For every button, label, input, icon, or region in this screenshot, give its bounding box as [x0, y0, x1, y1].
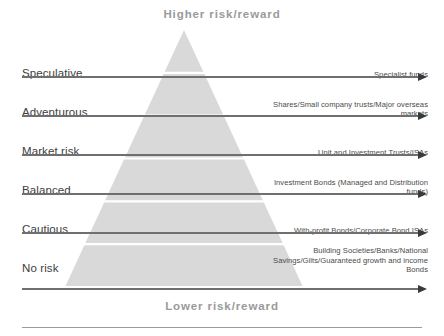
tier-arrow-line — [22, 193, 422, 195]
tier-arrow-line — [22, 288, 422, 290]
tier-arrow-line — [22, 154, 422, 156]
tier-arrow-line — [22, 115, 422, 117]
arrow-head-icon — [418, 190, 427, 198]
tier-row: Adventurous Shares/Small company trusts/… — [0, 84, 444, 123]
arrow-head-icon — [418, 73, 427, 81]
tier-products: Building Societies/Banks/National Saving… — [260, 246, 428, 275]
tier-row: Speculative Specialist funds — [0, 45, 444, 84]
tier-row: Cautious With-profit Bonds/Corporate Bon… — [0, 201, 444, 240]
higher-risk-caption: Higher risk/reward — [0, 8, 444, 20]
tier-arrow-line — [22, 232, 422, 234]
lower-risk-caption: Lower risk/reward — [0, 300, 444, 312]
arrow-head-icon — [418, 229, 427, 237]
tier-row: No risk Building Societies/Banks/Nationa… — [0, 240, 444, 279]
risk-pyramid-diagram: Higher risk/reward Speculative Specialis… — [0, 0, 444, 336]
bottom-divider — [22, 327, 422, 328]
tier-arrow-line — [22, 76, 422, 78]
arrow-head-icon — [418, 285, 427, 293]
arrow-head-icon — [418, 151, 427, 159]
tier-row: Balanced Investment Bonds (Managed and D… — [0, 162, 444, 201]
arrow-head-icon — [418, 112, 427, 120]
tier-name: No risk — [22, 262, 58, 274]
tier-row: Market risk Unit and Investment Trusts/I… — [0, 123, 444, 162]
